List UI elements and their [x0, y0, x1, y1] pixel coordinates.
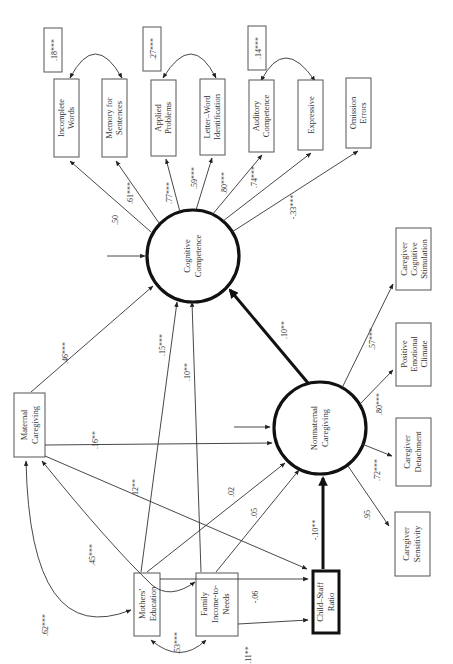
loading-line-memory — [116, 161, 159, 223]
svg-text:.57***: .57*** — [368, 328, 377, 350]
svg-text:Caregiving: Caregiving — [30, 405, 40, 444]
svg-text:Emotional: Emotional — [409, 336, 419, 372]
svg-text:.16**: .16** — [91, 431, 100, 449]
svg-text:.27***: .27*** — [149, 38, 158, 60]
svg-text:.46***: .46*** — [61, 342, 70, 364]
svg-text:Cognitive: Cognitive — [409, 242, 419, 276]
svg-text:Child–Staff: Child–Staff — [315, 582, 325, 622]
covariance-maternal-mothers-ed-outer — [26, 461, 131, 617]
svg-text:Expressive: Expressive — [306, 96, 316, 134]
svg-text:Positive: Positive — [399, 340, 409, 368]
svg-text:Caregiver: Caregiver — [401, 527, 411, 561]
svg-text:Needs: Needs — [221, 593, 231, 614]
svg-text:Maternal: Maternal — [19, 409, 29, 440]
svg-text:.59***: .59*** — [190, 167, 199, 189]
svg-text:Incomplete: Incomplete — [56, 99, 66, 137]
predictor-mothers-education: Mothers' Education — [134, 573, 160, 636]
covariance-maternal-mothers-ed-inner — [42, 461, 195, 592]
svg-text:.53***: .53*** — [173, 632, 182, 654]
svg-text:Memory for: Memory for — [104, 97, 114, 138]
svg-text:Nonmaternal: Nonmaternal — [309, 405, 319, 450]
covariance-arc-1 — [70, 54, 122, 78]
indicator-caregiver-detachment: Caregiver Detachment — [396, 418, 431, 486]
svg-text:.14***: .14*** — [254, 37, 263, 59]
indicator-emotional-climate: Positive Emotional Climate — [396, 323, 431, 386]
svg-text:.61***: .61*** — [126, 182, 135, 204]
sem-diagram: .18*** .27*** .14*** Incomplete Words Me… — [0, 0, 453, 664]
error-covariance-box-2: .27*** — [143, 27, 161, 71]
svg-text:Caregiving: Caregiving — [320, 408, 330, 447]
error-covariance-box-3: .14*** — [248, 26, 266, 70]
svg-text:Sentences: Sentences — [114, 101, 124, 135]
svg-text:-.10**: -.10** — [311, 520, 320, 541]
svg-text:Education: Education — [148, 586, 158, 621]
svg-text:.72***: .72*** — [373, 459, 382, 481]
svg-text:.62***: .62*** — [41, 614, 50, 636]
indicator-caregiver-sensitivity: Caregiver Sensitivity — [395, 512, 430, 576]
svg-text:Family: Family — [199, 591, 209, 616]
predictor-maternal-caregiving: Maternal Caregiving — [14, 393, 45, 457]
svg-text:Income-to-: Income-to- — [210, 585, 220, 623]
svg-text:Competence: Competence — [261, 95, 271, 138]
svg-text:-.06: -.06 — [251, 591, 260, 604]
svg-text:.12**: .12** — [131, 479, 140, 497]
latent-nonmaternal-caregiving: Nonmaternal Caregiving — [274, 382, 366, 474]
svg-text:.74***: .74*** — [250, 166, 259, 188]
covariance-arc-3 — [261, 58, 315, 81]
predictor-child-staff-ratio: Child–Staff Ratio — [313, 571, 339, 633]
indicator-expressive: Expressive — [298, 80, 323, 150]
covariance-arc-2 — [163, 54, 216, 78]
indicator-cognitive-stimulation: Caregiver Cognitive Stimulation — [396, 228, 431, 290]
svg-text:Identification: Identification — [212, 93, 222, 140]
path-income-to-cognitive — [192, 302, 201, 572]
svg-text:.15***: .15*** — [158, 334, 167, 356]
path-mothers-ed-to-nonmaternal — [147, 463, 285, 572]
svg-text:.95: .95 — [363, 510, 372, 520]
svg-text:-.33***: -.33*** — [289, 195, 298, 220]
loading-line-detachment — [362, 444, 392, 456]
indicator-auditory-competence: Auditory Competence — [249, 80, 274, 152]
svg-text:Errors: Errors — [358, 102, 368, 123]
svg-text:Problems: Problems — [163, 102, 173, 134]
svg-text:Mothers': Mothers' — [137, 589, 147, 619]
indicator-incomplete-words: Incomplete Words — [54, 79, 79, 157]
path-income-to-ratio — [238, 620, 308, 624]
svg-text:Caregiver: Caregiver — [399, 242, 409, 276]
path-income-to-nonmaternal — [216, 470, 299, 572]
latent-cognitive-competence: Cognitive Competence — [147, 210, 239, 302]
svg-text:.18***: .18*** — [50, 39, 59, 61]
svg-text:.45***: .45*** — [88, 544, 97, 566]
svg-text:.11**: .11** — [244, 646, 253, 664]
indicator-letter-word: Letter–Word Identification — [200, 79, 225, 155]
svg-text:Omission: Omission — [348, 96, 358, 129]
svg-text:Auditory: Auditory — [251, 100, 261, 131]
svg-text:Caregiver: Caregiver — [402, 435, 412, 469]
svg-text:.77***: .77*** — [165, 182, 174, 204]
svg-text:Climate: Climate — [419, 340, 429, 367]
svg-text:.10**: .10** — [280, 321, 289, 339]
svg-text:.80***: .80*** — [220, 172, 229, 194]
svg-text:.50: .50 — [111, 215, 120, 225]
svg-text:Detachment: Detachment — [413, 431, 423, 473]
svg-text:.10**: .10** — [183, 363, 192, 381]
svg-text:Sensitivity: Sensitivity — [412, 525, 422, 562]
svg-text:.05: .05 — [250, 508, 259, 518]
indicator-applied-problems: Applied Problems — [151, 80, 176, 156]
path-maternal-to-cognitive — [31, 286, 153, 392]
svg-text:Competence: Competence — [193, 235, 203, 278]
indicator-omission-errors: Omission Errors — [346, 78, 371, 148]
svg-text:.02: .02 — [227, 487, 236, 497]
svg-text:Words: Words — [66, 107, 76, 129]
svg-text:Letter–Word: Letter–Word — [202, 95, 212, 139]
svg-text:Stimulation: Stimulation — [419, 238, 429, 278]
svg-text:Ratio: Ratio — [326, 593, 336, 611]
svg-text:.80***: .80*** — [375, 393, 384, 415]
predictor-family-income: Family Income-to- Needs — [196, 573, 238, 636]
svg-text:Applied: Applied — [153, 104, 163, 132]
indicator-memory-sentences: Memory for Sentences — [102, 79, 127, 157]
path-nonmaternal-to-cognitive — [230, 290, 308, 383]
svg-text:Cognitive: Cognitive — [182, 239, 192, 273]
error-covariance-box-1: .18*** — [44, 28, 62, 72]
